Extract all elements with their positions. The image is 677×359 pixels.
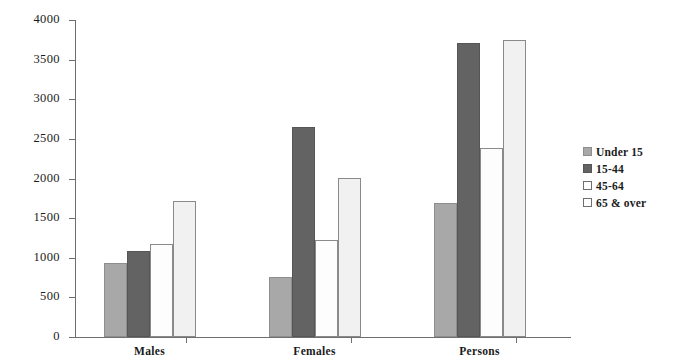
y-axis-tick: 1000 <box>69 258 75 259</box>
bar-chart: 05001000150020002500300035004000 MalesFe… <box>0 0 677 359</box>
x-axis-tick <box>186 337 187 343</box>
y-axis-tick-label: 1000 <box>33 250 60 265</box>
plot-area: 05001000150020002500300035004000 <box>75 20 570 337</box>
x-axis-label: Males <box>134 345 165 357</box>
y-axis-tick: 2000 <box>69 179 75 180</box>
y-axis-tick: 2500 <box>69 139 75 140</box>
bar <box>480 148 503 337</box>
legend-item-label: 45-64 <box>596 180 624 192</box>
legend-swatch-icon <box>583 147 592 156</box>
bar <box>269 277 292 337</box>
legend-item-label: 15-44 <box>596 163 624 175</box>
bar <box>457 43 480 337</box>
legend-item-label: Under 15 <box>596 146 643 158</box>
bar <box>503 40 526 337</box>
legend-item[interactable]: 65 & over <box>583 195 675 210</box>
bar-group <box>104 20 196 337</box>
y-axis-tick-label: 0 <box>53 329 60 344</box>
y-axis-tick-label: 1500 <box>33 210 60 225</box>
bar-group <box>434 20 526 337</box>
x-axis-label: Persons <box>459 345 499 357</box>
bar <box>434 203 457 337</box>
bar <box>173 201 196 337</box>
y-axis-tick: 3000 <box>69 99 75 100</box>
legend-item[interactable]: 45-64 <box>583 178 675 193</box>
bar <box>150 244 173 337</box>
x-axis-line <box>75 337 571 338</box>
bar-group <box>269 20 361 337</box>
bar <box>104 263 127 337</box>
legend-swatch-icon <box>583 181 592 190</box>
bar <box>315 240 338 337</box>
y-axis-tick-label: 4000 <box>33 12 60 27</box>
x-axis-label: Females <box>293 345 335 357</box>
y-axis-tick-label: 2000 <box>33 171 60 186</box>
bar <box>292 127 315 337</box>
legend-item[interactable]: Under 15 <box>583 144 675 159</box>
y-axis-tick: 3500 <box>69 60 75 61</box>
y-axis-tick-label: 3000 <box>33 91 60 106</box>
x-axis-tick <box>351 337 352 343</box>
y-axis-tick: 0 <box>69 337 75 338</box>
legend-item-label: 65 & over <box>596 197 646 209</box>
legend-swatch-icon <box>583 164 592 173</box>
legend-item[interactable]: 15-44 <box>583 161 675 176</box>
y-axis-tick: 1500 <box>69 218 75 219</box>
bar <box>338 178 361 337</box>
x-axis-tick <box>516 337 517 343</box>
chart-legend: Under 1515-4445-6465 & over <box>583 144 675 212</box>
legend-swatch-icon <box>583 198 592 207</box>
bar <box>127 251 150 337</box>
y-axis-tick: 4000 <box>69 20 75 21</box>
y-axis-tick-label: 3500 <box>33 52 60 67</box>
y-axis-tick: 500 <box>69 297 75 298</box>
y-axis-tick-label: 2500 <box>33 131 60 146</box>
y-axis-tick-label: 500 <box>40 289 60 304</box>
